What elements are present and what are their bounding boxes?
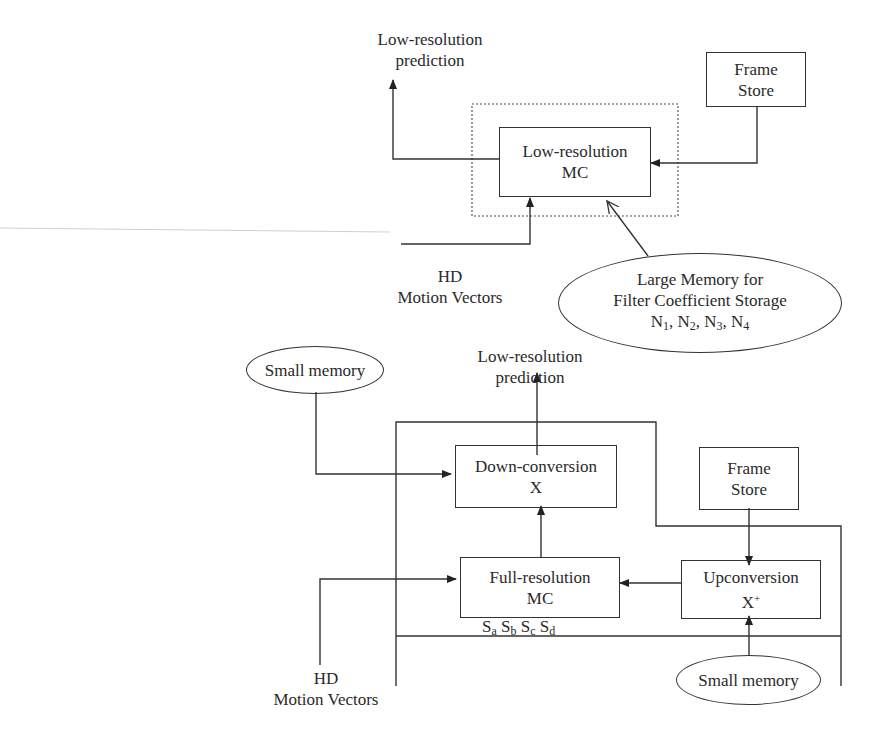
low-resolution-mc-block: Low-resolution MC (499, 127, 651, 197)
connection-wires (0, 0, 878, 747)
full-res-mc-line1: Full-resolution (489, 567, 590, 588)
top-frame-store-line2: Store (738, 80, 774, 101)
small-memory-right-label: Small memory (698, 670, 799, 691)
upconversion-plus: + (754, 592, 760, 604)
full-resolution-mc-block: Full-resolution MC (460, 557, 620, 618)
bottom-frame-store-line2: Store (731, 479, 767, 500)
top-frame-store-line1: Frame (734, 59, 777, 80)
bottom-mv-line2: Motion Vectors (256, 689, 396, 710)
coef-n3-sub: 3 (717, 319, 723, 333)
bottom-mv-line1: HD (256, 668, 396, 689)
coef-n2-sub: 2 (690, 319, 696, 333)
small-memory-left-ellipse: Small memory (246, 346, 384, 394)
large-memory-line2: Filter Coefficient Storage (613, 290, 786, 311)
sub-sb: S (501, 617, 510, 636)
coef-n4: N (731, 312, 743, 331)
large-memory-line1: Large Memory for (637, 269, 763, 290)
down-conversion-block: Down-conversion X (455, 445, 617, 508)
bottom-frame-store-line1: Frame (727, 458, 770, 479)
upconversion-x: X (742, 593, 754, 612)
bottom-prediction-line2: prediction (460, 367, 600, 388)
low-res-mc-line1: Low-resolution (523, 141, 628, 162)
down-conversion-line1: Down-conversion (475, 456, 597, 477)
filter-coefficients: N1, N2, N3, N4 (651, 311, 750, 337)
sub-sa-sub: a (491, 624, 496, 638)
full-res-mc-line2: MC (527, 588, 553, 609)
large-memory-ellipse: Large Memory for Filter Coefficient Stor… (558, 253, 842, 353)
sub-sd-sub: d (549, 624, 555, 638)
bottom-motion-vectors-label: HD Motion Vectors (256, 668, 396, 710)
sub-sc: S (521, 617, 530, 636)
upconversion-line1: Upconversion (703, 567, 798, 588)
upconversion-line2: X+ (742, 588, 761, 613)
bottom-frame-store-block: Frame Store (699, 447, 799, 510)
sub-sd: S (540, 617, 549, 636)
coef-n4-sub: 4 (743, 319, 749, 333)
down-conversion-line2: X (530, 477, 542, 498)
top-prediction-line2: prediction (360, 50, 500, 71)
small-memory-left-label: Small memory (265, 360, 366, 381)
sub-sc-sub: c (530, 624, 535, 638)
sub-block-labels: Sa Sb Sc Sd (482, 617, 555, 639)
sub-sb-sub: b (511, 624, 517, 638)
top-frame-store-block: Frame Store (706, 52, 806, 107)
top-prediction-output-label: Low-resolution prediction (360, 29, 500, 71)
top-prediction-line1: Low-resolution (360, 29, 500, 50)
small-memory-right-ellipse: Small memory (676, 655, 821, 705)
bottom-prediction-output-label: Low-resolution prediction (460, 346, 600, 388)
top-mv-line2: Motion Vectors (380, 287, 520, 308)
coef-n3: N (704, 312, 716, 331)
coef-n2: N (677, 312, 689, 331)
upconversion-block: Upconversion X+ (681, 560, 821, 619)
top-mv-line1: HD (380, 266, 520, 287)
low-res-mc-line2: MC (562, 162, 588, 183)
coef-n1-sub: 1 (663, 319, 669, 333)
top-motion-vectors-label: HD Motion Vectors (380, 266, 520, 308)
coef-n1: N (651, 312, 663, 331)
bottom-prediction-line1: Low-resolution (460, 346, 600, 367)
